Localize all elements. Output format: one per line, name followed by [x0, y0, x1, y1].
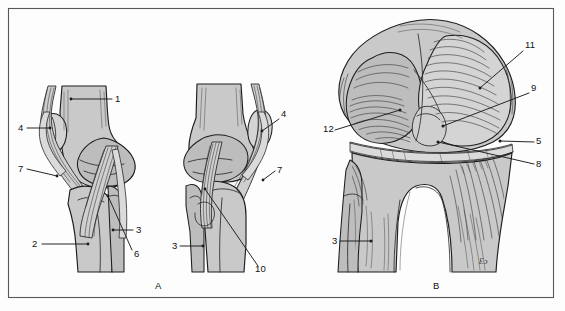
callout-c5: 5 [499, 135, 542, 146]
anatomy-figure-page: 1 4 7 2 3 [0, 0, 565, 311]
anatomy-illustration-canvas: 1 4 7 2 3 [0, 0, 565, 311]
panel-label-b: B [433, 280, 439, 291]
callout-b7: 7 [262, 164, 283, 181]
tibia-anterior [352, 153, 512, 272]
panel-b-right-figure: Ɛɔ 11 9 5 8 [323, 20, 541, 272]
panel-label-a: A [155, 280, 162, 291]
callout-a4-label: 4 [18, 122, 23, 133]
callout-b4-label: 4 [281, 108, 286, 119]
callout-a7-label: 7 [18, 163, 23, 174]
callout-c12-label: 12 [323, 123, 334, 134]
callout-c5-label: 5 [536, 135, 541, 146]
callout-c9-label: 9 [531, 82, 536, 93]
callout-a6-label: 6 [134, 248, 139, 259]
panel-a-left-figure: 1 4 7 2 3 [18, 86, 141, 272]
callout-c8-label: 8 [536, 158, 541, 169]
callout-b10-label: 10 [255, 263, 266, 274]
panel-a-middle-figure: 4 7 3 10 [172, 84, 286, 274]
callout-a2-label: 2 [32, 238, 37, 249]
callout-a1-label: 1 [115, 93, 120, 104]
callout-a3-label: 3 [136, 224, 141, 235]
artist-signature: Ɛɔ [479, 256, 487, 266]
fibula-head-anterior [338, 160, 362, 272]
callout-b3-label: 3 [172, 240, 177, 251]
callout-c3-label: 3 [332, 235, 337, 246]
callout-c11-label: 11 [525, 39, 535, 50]
callout-b7-label: 7 [277, 164, 282, 175]
